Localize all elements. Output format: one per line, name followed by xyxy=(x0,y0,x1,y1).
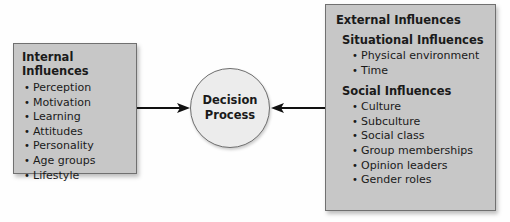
list-item: Opinion leaders xyxy=(352,159,495,174)
list-item: Subculture xyxy=(352,115,495,130)
list-item: Lifestyle xyxy=(22,169,136,184)
list-item: Perception xyxy=(22,81,136,96)
decision-process-line2: Process xyxy=(203,108,258,123)
list-item: Age groups xyxy=(22,154,136,169)
social-influences-list: Culture Subculture Social class Group me… xyxy=(336,100,495,188)
situational-influences-list: Physical environment Time xyxy=(336,49,495,78)
right-arrow xyxy=(270,101,326,115)
situational-influences-title: Situational Influences xyxy=(342,33,495,47)
internal-influences-box: Internal Influences Perception Motivatio… xyxy=(13,43,137,174)
list-item: Motivation xyxy=(22,96,136,111)
list-item: Time xyxy=(352,64,495,79)
list-item: Gender roles xyxy=(352,173,495,188)
internal-influences-list: Perception Motivation Learning Attitudes… xyxy=(22,81,136,183)
list-item: Group memberships xyxy=(352,144,495,159)
list-item: Culture xyxy=(352,100,495,115)
decision-process-node: Decision Process xyxy=(190,68,270,148)
decision-process-line1: Decision xyxy=(203,93,258,108)
list-item: Personality xyxy=(22,139,136,154)
list-item: Physical environment xyxy=(352,49,495,64)
social-influences-title: Social Influences xyxy=(342,84,495,98)
list-item: Attitudes xyxy=(22,125,136,140)
internal-influences-title: Internal Influences xyxy=(22,50,136,78)
list-item: Social class xyxy=(352,129,495,144)
external-influences-box: External Influences Situational Influenc… xyxy=(325,4,496,211)
list-item: Learning xyxy=(22,110,136,125)
external-influences-title: External Influences xyxy=(336,13,495,27)
left-arrow xyxy=(137,101,191,115)
